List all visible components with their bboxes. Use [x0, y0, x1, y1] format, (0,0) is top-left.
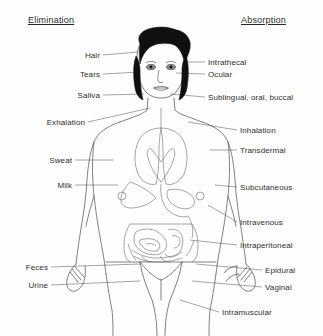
right-route-label: Ocular: [208, 70, 232, 79]
leader-line: [51, 281, 140, 285]
left-route-label: Saliva: [78, 91, 100, 100]
leader-line: [192, 281, 262, 287]
right-route-label: Intravenous: [240, 218, 283, 227]
leader-line: [103, 52, 138, 55]
left-route-label: Hair: [85, 51, 100, 60]
leader-line: [88, 108, 150, 122]
leader-line: [215, 185, 237, 187]
right-route-label: Inhalation: [240, 126, 276, 135]
left-route-label: Urine: [28, 281, 48, 290]
leader-line: [180, 300, 219, 312]
leader-line: [170, 94, 205, 97]
right-route-label: Intramuscular: [222, 308, 272, 317]
left-route-label: Exhalation: [47, 118, 85, 127]
right-route-label: Sublingual, oral, buccal: [208, 93, 293, 102]
left-route-label: Sweat: [49, 156, 72, 165]
leader-line: [51, 264, 140, 267]
right-route-label: Transdermal: [240, 146, 286, 155]
left-route-label: Feces: [26, 263, 48, 272]
right-route-label: Epidural: [265, 266, 295, 275]
right-route-label: Intrathecal: [208, 58, 246, 67]
right-route-label: Intraperitoneal: [240, 241, 293, 250]
leader-line: [176, 73, 205, 74]
right-route-label: Subcutaneous: [240, 183, 292, 192]
right-route-label: Vaginal: [265, 283, 292, 292]
face-features: [146, 62, 176, 91]
leader-line: [196, 264, 262, 270]
leader-line: [188, 122, 237, 130]
leader-line: [190, 240, 237, 245]
left-route-label: Tears: [80, 70, 100, 79]
anatomy-diagram-page: Elimination Absorption: [0, 0, 323, 336]
internal-organs: [118, 108, 204, 262]
left-route-label: Milk: [57, 181, 72, 190]
hair: [134, 27, 191, 100]
